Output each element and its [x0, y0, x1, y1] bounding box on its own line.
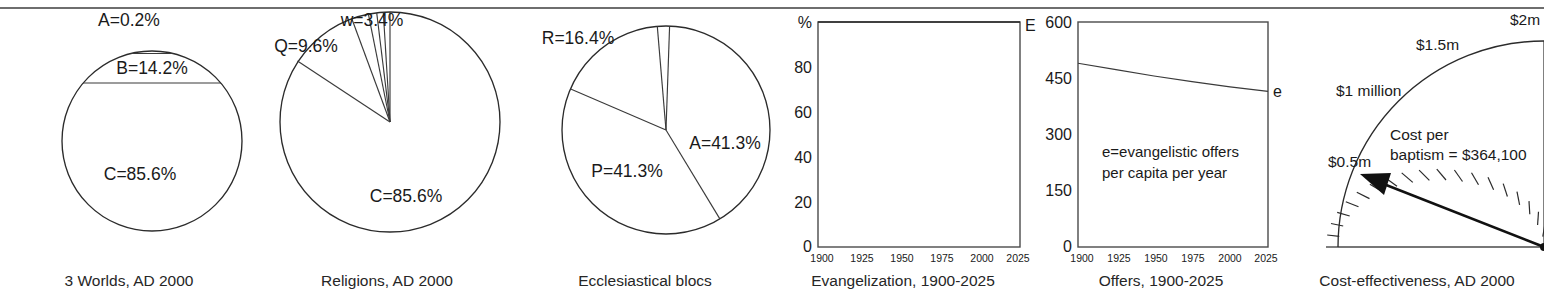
- slice-label-a: A=41.3%: [689, 133, 761, 153]
- panel-caption-religions: Religions, AD 2000: [258, 272, 516, 290]
- plot-frame: [1078, 22, 1268, 247]
- gauge-pivot: [1540, 243, 1544, 251]
- plot-frame: [818, 22, 1020, 247]
- x-tick-2000: 2000: [970, 252, 994, 264]
- annotation-line-1: e=evangelistic offers: [1102, 143, 1239, 160]
- panel-evangelization: % 80 60 40 20 0 1900 1925 1950 1975 2000…: [774, 0, 1032, 304]
- slice-label-c: C=85.6%: [104, 164, 176, 184]
- chart-three-worlds: A=0.2% B=14.2% C=85.6%: [0, 0, 258, 270]
- x-tick-1925: 1925: [850, 252, 874, 264]
- chart-evangelization: % 80 60 40 20 0 1900 1925 1950 1975 2000…: [774, 0, 1032, 270]
- panel-caption-cost-effectiveness: Cost-effectiveness, AD 2000: [1290, 272, 1544, 290]
- chart-cost-effectiveness: $0.5m $1 million $1.5m $2m Cost per bapt…: [1290, 0, 1544, 270]
- panel-cost-effectiveness: $0.5m $1 million $1.5m $2m Cost per bapt…: [1290, 0, 1544, 304]
- y-tick-300: 300: [1045, 126, 1072, 143]
- y-tick-80: 80: [794, 59, 812, 76]
- x-tick-2025: 2025: [1254, 252, 1278, 264]
- x-tick-1975: 1975: [1181, 252, 1205, 264]
- panel-ecclesiastical-blocs: R=16.4% A=41.3% P=41.3% Ecclesiastical b…: [516, 0, 774, 304]
- panel-religions: w=3.4% Q=9.6% C=85.6% Religions, AD 2000: [258, 0, 516, 304]
- gauge-tick-label-0-5m: $0.5m: [1328, 153, 1371, 170]
- y-tick-60: 60: [794, 104, 812, 121]
- y-tick-150: 150: [1045, 182, 1072, 199]
- slice-label-a: A=0.2%: [98, 10, 160, 30]
- figure-sheet: A=0.2% B=14.2% C=85.6% 3 Worlds, AD 2000…: [0, 0, 1544, 304]
- x-tick-2000: 2000: [1218, 252, 1242, 264]
- chart-offers: 600 450 300 150 0 1900 1925 1950 1975 20…: [1032, 0, 1290, 270]
- panel-caption-ecclesiastical-blocs: Ecclesiastical blocs: [516, 272, 774, 290]
- series-line-e-drawn: [1078, 63, 1268, 91]
- x-tick-1950: 1950: [1144, 252, 1168, 264]
- gauge-tick-label-2m: $2m: [1510, 11, 1540, 28]
- chart-religions: w=3.4% Q=9.6% C=85.6%: [258, 0, 516, 270]
- slice-label-c: C=85.6%: [370, 186, 442, 206]
- gauge-tick-label-1m: $1 million: [1336, 82, 1401, 99]
- y-tick-20: 20: [794, 194, 812, 211]
- panel-caption-three-worlds: 3 Worlds, AD 2000: [0, 272, 258, 290]
- x-tick-2025: 2025: [1006, 252, 1030, 264]
- slice-label-w: w=3.4%: [340, 10, 404, 30]
- gauge-needle: [1376, 181, 1544, 247]
- pie-circle: [62, 51, 242, 231]
- panel-caption-evangelization: Evangelization, 1900-2025: [774, 272, 1032, 290]
- y-axis-unit: %: [798, 14, 812, 31]
- slice-label-b: B=14.2%: [116, 58, 188, 78]
- panel-three-worlds: A=0.2% B=14.2% C=85.6% 3 Worlds, AD 2000: [0, 0, 258, 304]
- y-tick-450: 450: [1045, 70, 1072, 87]
- chart-ecclesiastical-blocs: R=16.4% A=41.3% P=41.3%: [516, 0, 774, 270]
- gauge-needle-head: [1360, 173, 1391, 195]
- y-tick-600: 600: [1045, 14, 1072, 31]
- pie-slice-dividers: [570, 26, 720, 219]
- x-tick-1925: 1925: [1107, 252, 1131, 264]
- x-tick-1975: 1975: [930, 252, 954, 264]
- slice-label-q: Q=9.6%: [274, 36, 338, 56]
- x-tick-1900: 1900: [1070, 252, 1094, 264]
- gauge-arc: [1338, 41, 1544, 247]
- y-tick-40: 40: [794, 149, 812, 166]
- panel-caption-offers: Offers, 1900-2025: [1032, 272, 1290, 290]
- slice-label-p: P=41.3%: [591, 161, 663, 181]
- gauge-tick-label-1-5m: $1.5m: [1416, 36, 1459, 53]
- gauge-value-line-1: Cost per: [1390, 126, 1449, 143]
- annotation-line-2: per capita per year: [1102, 164, 1227, 181]
- slice-label-r: R=16.4%: [542, 28, 614, 48]
- panel-offers: 600 450 300 150 0 1900 1925 1950 1975 20…: [1032, 0, 1290, 304]
- series-label-e: e: [1273, 83, 1282, 100]
- gauge-value-line-2: baptism = $364,100: [1390, 146, 1527, 163]
- x-tick-1950: 1950: [890, 252, 914, 264]
- x-tick-1900: 1900: [810, 252, 834, 264]
